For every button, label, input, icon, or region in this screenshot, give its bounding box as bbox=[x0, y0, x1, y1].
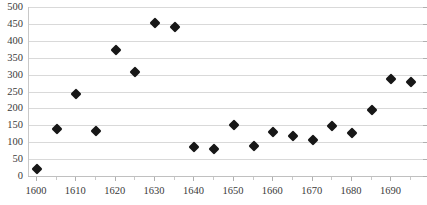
y-tick-mark-50 bbox=[423, 159, 427, 160]
gridline-y-400 bbox=[29, 41, 423, 42]
x-minor-tick-1685 bbox=[371, 177, 372, 180]
data-point bbox=[90, 125, 101, 136]
gridline-y-350 bbox=[29, 58, 423, 59]
x-tick-mark-1650 bbox=[233, 177, 234, 181]
y-tick-mark-200 bbox=[423, 108, 427, 109]
x-minor-tick-1645 bbox=[213, 177, 214, 180]
y-tick-mark-250 bbox=[423, 92, 427, 93]
data-point bbox=[307, 135, 318, 146]
data-point bbox=[228, 119, 239, 130]
gridline-y-100 bbox=[29, 142, 423, 143]
data-point bbox=[287, 130, 298, 141]
x-tick-label-1660: 1660 bbox=[262, 186, 283, 197]
y-tick-mark-500 bbox=[423, 7, 427, 8]
x-axis: 1600161016201630164016501660167016801690 bbox=[28, 177, 423, 205]
x-minor-tick-1695 bbox=[410, 177, 411, 180]
gridline-y-500 bbox=[29, 7, 423, 8]
data-point bbox=[209, 143, 220, 154]
y-tick-label-100: 100 bbox=[7, 137, 23, 148]
x-tick-mark-1680 bbox=[351, 177, 352, 181]
y-tick-label-350: 350 bbox=[7, 52, 23, 63]
x-tick-label-1670: 1670 bbox=[301, 186, 322, 197]
plot-area bbox=[28, 7, 423, 177]
y-tick-mark-100 bbox=[423, 142, 427, 143]
gridline-y-150 bbox=[29, 125, 423, 126]
x-minor-tick-1655 bbox=[253, 177, 254, 180]
x-minor-tick-1605 bbox=[56, 177, 57, 180]
y-tick-mark-400 bbox=[423, 41, 427, 42]
y-tick-label-200: 200 bbox=[7, 103, 23, 114]
x-tick-mark-1610 bbox=[75, 177, 76, 181]
y-tick-label-500: 500 bbox=[7, 2, 23, 13]
gridline-y-200 bbox=[29, 108, 423, 109]
x-tick-label-1690: 1690 bbox=[380, 186, 401, 197]
data-point bbox=[110, 45, 121, 56]
x-tick-mark-1690 bbox=[390, 177, 391, 181]
data-point bbox=[327, 120, 338, 131]
y-tick-mark-350 bbox=[423, 58, 427, 59]
data-point bbox=[406, 76, 417, 87]
y-tick-mark-150 bbox=[423, 125, 427, 126]
x-tick-mark-1630 bbox=[154, 177, 155, 181]
y-tick-label-50: 50 bbox=[13, 154, 24, 165]
x-minor-tick-1665 bbox=[292, 177, 293, 180]
x-minor-tick-1675 bbox=[331, 177, 332, 180]
x-minor-tick-1615 bbox=[95, 177, 96, 180]
data-point bbox=[71, 89, 82, 100]
gridline-y-250 bbox=[29, 92, 423, 93]
gridline-y-300 bbox=[29, 75, 423, 76]
x-tick-label-1640: 1640 bbox=[183, 186, 204, 197]
y-tick-mark-450 bbox=[423, 24, 427, 25]
y-tick-label-400: 400 bbox=[7, 36, 23, 47]
y-tick-label-450: 450 bbox=[7, 19, 23, 30]
y-tick-label-150: 150 bbox=[7, 120, 23, 131]
x-tick-label-1620: 1620 bbox=[104, 186, 125, 197]
gridline-y-50 bbox=[29, 159, 423, 160]
x-minor-tick-1625 bbox=[134, 177, 135, 180]
gridline-y-450 bbox=[29, 24, 423, 25]
x-tick-mark-1640 bbox=[193, 177, 194, 181]
y-tick-mark-300 bbox=[423, 75, 427, 76]
x-tick-label-1680: 1680 bbox=[341, 186, 362, 197]
x-tick-mark-1600 bbox=[36, 177, 37, 181]
x-tick-mark-1660 bbox=[272, 177, 273, 181]
x-tick-mark-1670 bbox=[312, 177, 313, 181]
x-tick-label-1650: 1650 bbox=[222, 186, 243, 197]
data-point bbox=[31, 164, 42, 175]
data-point bbox=[346, 127, 357, 138]
x-tick-label-1610: 1610 bbox=[65, 186, 86, 197]
x-minor-tick-1635 bbox=[174, 177, 175, 180]
data-point bbox=[366, 105, 377, 116]
y-axis: 050100150200250300350400450500 bbox=[0, 7, 26, 177]
x-tick-label-1630: 1630 bbox=[144, 186, 165, 197]
y-tick-label-300: 300 bbox=[7, 69, 23, 80]
data-point bbox=[149, 17, 160, 28]
y-tick-mark-0 bbox=[423, 176, 427, 177]
x-tick-mark-1620 bbox=[115, 177, 116, 181]
data-point bbox=[189, 142, 200, 153]
y-tick-label-0: 0 bbox=[18, 171, 23, 182]
data-point bbox=[268, 126, 279, 137]
x-tick-label-1600: 1600 bbox=[25, 186, 46, 197]
y-tick-label-250: 250 bbox=[7, 86, 23, 97]
